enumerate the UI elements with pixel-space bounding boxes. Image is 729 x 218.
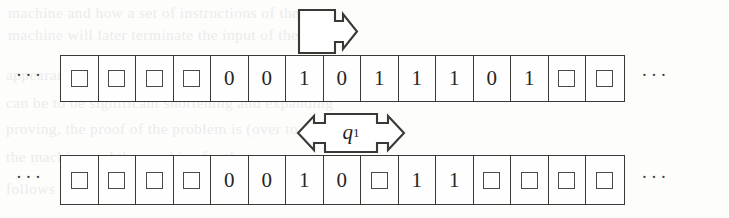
- tape-cell: [136, 56, 174, 101]
- tape-cell-value: 1: [449, 66, 460, 91]
- tape-cell-value: 0: [224, 168, 235, 193]
- tape-ellipsis-right: ···: [625, 167, 687, 194]
- blank-square-icon: [596, 172, 613, 189]
- tape-cell: 0: [474, 56, 512, 101]
- tape-cell: 1: [399, 156, 437, 204]
- tape-cell-value: 0: [487, 66, 498, 91]
- tape-cell-value: 1: [412, 168, 423, 193]
- tape-cell: 0: [249, 56, 287, 101]
- state-subscript: 1: [353, 125, 360, 141]
- state-indicator: q1: [295, 110, 407, 156]
- tape-cell-value: 1: [449, 168, 460, 193]
- blank-square-icon: [108, 70, 125, 87]
- state-letter: q: [343, 120, 354, 145]
- blank-square-icon: [183, 172, 200, 189]
- tape-ellipsis-left: ···: [0, 65, 60, 92]
- tape-cell: [586, 56, 624, 101]
- tape-cell: 1: [511, 56, 549, 101]
- tape-cell: 1: [436, 56, 474, 101]
- tape-ellipsis-left: ···: [0, 167, 60, 194]
- tape-cell: 0: [211, 156, 249, 204]
- tape-cell: [174, 56, 212, 101]
- state-label: q1: [295, 110, 407, 156]
- tape-cell: [474, 156, 512, 204]
- tape-cell: [361, 156, 399, 204]
- tape-cell-value: 0: [337, 168, 348, 193]
- tape-cell: 1: [361, 56, 399, 101]
- tape-cell: [61, 56, 99, 101]
- ghost-text-line: machine will later terminate the input o…: [8, 26, 298, 44]
- upper-tape: 001011101: [60, 55, 625, 102]
- tape-cell: [511, 156, 549, 204]
- tape-cell: [549, 156, 587, 204]
- blank-square-icon: [521, 172, 538, 189]
- lower-tape: 001011: [60, 155, 625, 205]
- ghost-text-line: proving, the proof of the problem is (ov…: [6, 120, 323, 138]
- tape-cell: [61, 156, 99, 204]
- tape-cell-value: 0: [262, 66, 273, 91]
- upper-tape-row: ··· 001011101 ···: [0, 55, 687, 102]
- tape-cell-value: 1: [374, 66, 385, 91]
- tape-cell-value: 0: [262, 168, 273, 193]
- tape-cell: [136, 156, 174, 204]
- read-write-head-icon: [297, 8, 359, 56]
- blank-square-icon: [596, 70, 613, 87]
- tape-cell: [99, 56, 137, 101]
- tape-cell: 1: [436, 156, 474, 204]
- blank-square-icon: [558, 70, 575, 87]
- tape-cell: 0: [211, 56, 249, 101]
- blank-square-icon: [71, 70, 88, 87]
- blank-square-icon: [183, 70, 200, 87]
- tape-cell: 0: [249, 156, 287, 204]
- tape-cell-value: 1: [299, 168, 310, 193]
- lower-tape-row: ··· 001011 ···: [0, 155, 687, 205]
- blank-square-icon: [108, 172, 125, 189]
- tape-cell: 1: [286, 156, 324, 204]
- tape-cell: [586, 156, 624, 204]
- tape-cell: [99, 156, 137, 204]
- tape-cell: 1: [286, 56, 324, 101]
- tape-cell-value: 0: [224, 66, 235, 91]
- tape-ellipsis-right: ···: [625, 65, 687, 92]
- head-arrow-shape: [297, 8, 359, 56]
- tape-cell: [174, 156, 212, 204]
- tape-cell: [549, 56, 587, 101]
- tape-cell-value: 1: [524, 66, 535, 91]
- tape-cell-value: 1: [299, 66, 310, 91]
- tape-cell-value: 0: [337, 66, 348, 91]
- tape-cell: 0: [324, 156, 362, 204]
- blank-square-icon: [71, 172, 88, 189]
- blank-square-icon: [371, 172, 388, 189]
- blank-square-icon: [146, 70, 163, 87]
- ghost-text-line: machine and how a set of instructions of…: [8, 4, 299, 22]
- tape-cell: 0: [324, 56, 362, 101]
- blank-square-icon: [146, 172, 163, 189]
- blank-square-icon: [558, 172, 575, 189]
- blank-square-icon: [483, 172, 500, 189]
- tape-cell: 1: [399, 56, 437, 101]
- tape-cell-value: 1: [412, 66, 423, 91]
